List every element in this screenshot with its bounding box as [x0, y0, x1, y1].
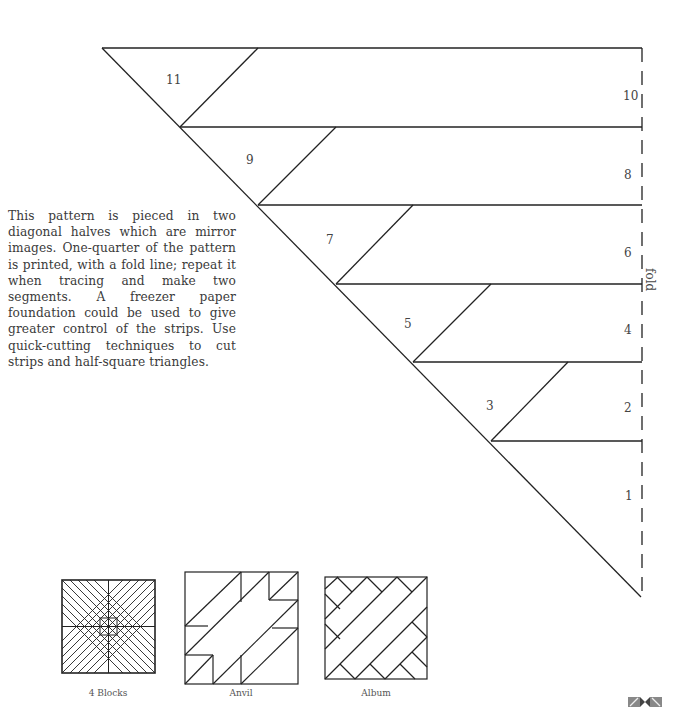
piece-8: 8 — [624, 168, 632, 182]
thumbnail-album — [325, 577, 427, 679]
fold-label: fold — [643, 268, 657, 292]
pattern-diagram: 11 9 7 5 3 10 8 6 4 2 1 fold — [0, 0, 684, 712]
caption-4-blocks: 4 Blocks — [48, 688, 168, 698]
caption-anvil: Anvil — [181, 688, 301, 698]
piece-6: 6 — [624, 246, 632, 260]
caption-album: Album — [316, 688, 436, 698]
thumbnail-4-blocks — [62, 580, 155, 673]
piece-11: 11 — [166, 73, 181, 87]
piece-10: 10 — [623, 89, 638, 103]
piece-1: 1 — [625, 489, 633, 503]
piece-4: 4 — [624, 323, 632, 337]
thumbnail-anvil — [185, 572, 298, 684]
piece-2: 2 — [624, 401, 632, 415]
piece-7: 7 — [326, 233, 334, 247]
publisher-logo-icon — [628, 696, 662, 708]
piece-9: 9 — [246, 153, 254, 167]
piece-3: 3 — [486, 399, 494, 413]
piece-5: 5 — [404, 317, 412, 331]
